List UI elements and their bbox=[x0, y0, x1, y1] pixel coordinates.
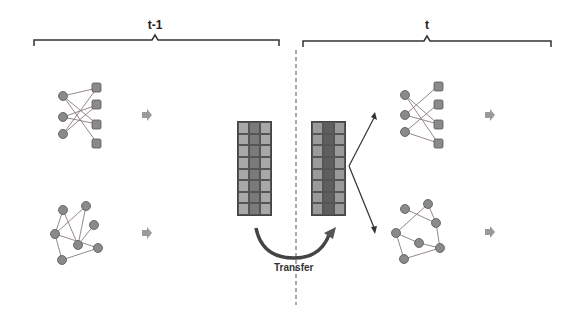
bracket-current bbox=[303, 36, 551, 47]
embedding-matrix-prior bbox=[237, 121, 272, 216]
embedding-matrix-transferred bbox=[311, 121, 346, 216]
user-item-graph-left bbox=[63, 88, 97, 143]
transfer-label: Transfer bbox=[274, 262, 313, 273]
fanout-arrow-icon bbox=[349, 116, 375, 230]
user-item-graph-right bbox=[405, 86, 438, 143]
bracket-previous bbox=[34, 35, 279, 46]
